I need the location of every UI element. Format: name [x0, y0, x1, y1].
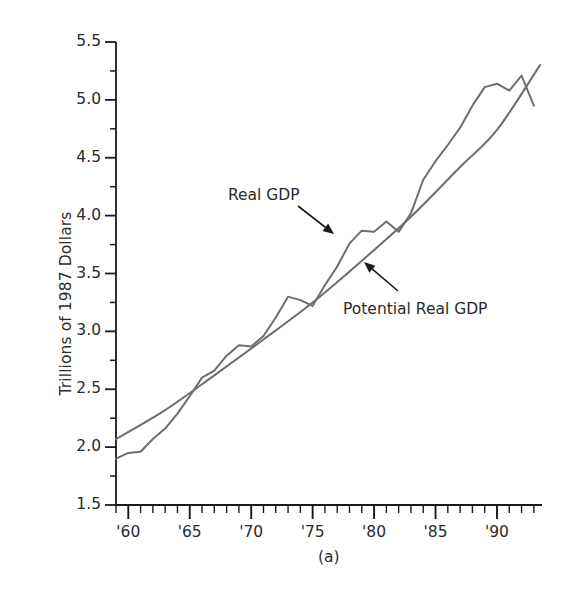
tick-group [105, 42, 534, 519]
x-tick-label: '85 [410, 523, 462, 541]
annotation-arrows [298, 206, 398, 291]
arrow-head-real-gdp [322, 224, 334, 234]
y-tick-label: 4.5 [53, 148, 101, 166]
y-tick-label: 5.5 [53, 32, 101, 50]
y-tick-label: 2.0 [53, 437, 101, 455]
y-tick-label: 2.5 [53, 379, 101, 397]
y-tick-label: 1.5 [53, 495, 101, 513]
x-tick-label: '80 [348, 523, 400, 541]
x-tick-label: '60 [102, 523, 154, 541]
gdp-figure: Trillions of 1987 Dollars 5.55.04.54.03.… [0, 0, 568, 607]
arrow-shaft-real-gdp [298, 206, 325, 227]
annotation-potential-real-gdp: Potential Real GDP [343, 300, 487, 318]
y-tick-label: 4.0 [53, 206, 101, 224]
x-tick-label: '65 [164, 523, 216, 541]
axis-group [116, 42, 542, 505]
x-tick-label: '90 [471, 523, 523, 541]
x-tick-label: '75 [287, 523, 339, 541]
series-potential-real-gdp [116, 65, 540, 439]
series-group [116, 65, 540, 459]
y-tick-label: 3.0 [53, 321, 101, 339]
y-tick-label: 3.5 [53, 264, 101, 282]
y-tick-label: 5.0 [53, 90, 101, 108]
annotation-real-gdp: Real GDP [228, 186, 300, 204]
panel-caption: (a) [318, 548, 340, 566]
x-tick-label: '70 [225, 523, 277, 541]
arrow-shaft-potential-real-gdp [372, 269, 398, 291]
